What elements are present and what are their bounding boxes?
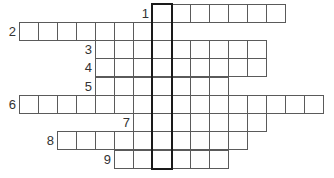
grid-cell[interactable] [133, 113, 153, 132]
grid-cell[interactable] [152, 58, 172, 77]
grid-cell[interactable] [133, 77, 153, 96]
grid-cell[interactable] [76, 95, 96, 114]
grid-cell[interactable] [209, 40, 229, 59]
grid-cell[interactable] [228, 95, 248, 114]
grid-cell[interactable] [228, 40, 248, 59]
clue-number-8: 8 [40, 134, 54, 147]
grid-cell[interactable] [133, 150, 153, 169]
grid-cell[interactable] [38, 22, 58, 41]
grid-cell[interactable] [171, 113, 191, 132]
grid-cell[interactable] [285, 95, 305, 114]
grid-cell[interactable] [247, 58, 267, 77]
grid-cell[interactable] [190, 40, 210, 59]
grid-cell[interactable] [209, 95, 229, 114]
grid-cell[interactable] [247, 113, 267, 132]
clue-number-6: 6 [2, 98, 16, 111]
grid-cell[interactable] [209, 77, 229, 96]
grid-cell[interactable] [152, 40, 172, 59]
grid-cell[interactable] [152, 131, 172, 150]
clue-number-2: 2 [2, 25, 16, 38]
grid-cell[interactable] [247, 4, 267, 23]
grid-cell[interactable] [190, 77, 210, 96]
grid-cell[interactable] [114, 150, 134, 169]
grid-cell[interactable] [152, 22, 172, 41]
grid-cell[interactable] [152, 113, 172, 132]
grid-cell[interactable] [190, 4, 210, 23]
grid-cell[interactable] [171, 58, 191, 77]
grid-cell[interactable] [228, 4, 248, 23]
clue-number-5: 5 [78, 80, 92, 93]
grid-cell[interactable] [19, 95, 39, 114]
crossword-grid: 123456789 [0, 0, 334, 178]
grid-cell[interactable] [152, 77, 172, 96]
grid-cell[interactable] [95, 22, 115, 41]
grid-cell[interactable] [209, 131, 229, 150]
clue-number-9: 9 [97, 153, 111, 166]
grid-cell[interactable] [114, 40, 134, 59]
grid-cell[interactable] [95, 77, 115, 96]
clue-number-1: 1 [135, 7, 149, 20]
grid-cell[interactable] [171, 95, 191, 114]
grid-cell[interactable] [57, 131, 77, 150]
grid-cell[interactable] [228, 131, 248, 150]
grid-cell[interactable] [114, 58, 134, 77]
grid-cell[interactable] [95, 95, 115, 114]
grid-cell[interactable] [152, 150, 172, 169]
grid-cell[interactable] [152, 4, 172, 23]
grid-cell[interactable] [209, 150, 229, 169]
grid-cell[interactable] [171, 77, 191, 96]
grid-cell[interactable] [152, 95, 172, 114]
grid-cell[interactable] [190, 113, 210, 132]
grid-cell[interactable] [76, 22, 96, 41]
grid-cell[interactable] [266, 95, 286, 114]
grid-cell[interactable] [114, 131, 134, 150]
grid-cell[interactable] [171, 4, 191, 23]
grid-cell[interactable] [57, 95, 77, 114]
grid-cell[interactable] [114, 95, 134, 114]
grid-cell[interactable] [57, 22, 77, 41]
grid-cell[interactable] [114, 22, 134, 41]
grid-cell[interactable] [171, 150, 191, 169]
grid-cell[interactable] [133, 40, 153, 59]
grid-cell[interactable] [247, 95, 267, 114]
grid-cell[interactable] [171, 131, 191, 150]
grid-cell[interactable] [228, 58, 248, 77]
clue-number-3: 3 [78, 43, 92, 56]
grid-cell[interactable] [190, 95, 210, 114]
grid-cell[interactable] [247, 40, 267, 59]
clue-number-7: 7 [116, 116, 130, 129]
grid-cell[interactable] [133, 131, 153, 150]
grid-cell[interactable] [19, 22, 39, 41]
grid-cell[interactable] [209, 113, 229, 132]
grid-cell[interactable] [209, 4, 229, 23]
grid-cell[interactable] [266, 4, 286, 23]
grid-cell[interactable] [133, 22, 153, 41]
grid-cell[interactable] [114, 77, 134, 96]
grid-cell[interactable] [228, 113, 248, 132]
clue-number-4: 4 [78, 61, 92, 74]
grid-cell[interactable] [190, 58, 210, 77]
grid-cell[interactable] [95, 131, 115, 150]
grid-cell[interactable] [95, 40, 115, 59]
grid-cell[interactable] [38, 95, 58, 114]
grid-cell[interactable] [171, 40, 191, 59]
grid-cell[interactable] [133, 58, 153, 77]
grid-cell[interactable] [76, 131, 96, 150]
grid-cell[interactable] [190, 131, 210, 150]
grid-cell[interactable] [190, 150, 210, 169]
grid-cell[interactable] [95, 58, 115, 77]
grid-cell[interactable] [209, 58, 229, 77]
grid-cell[interactable] [133, 95, 153, 114]
grid-cell[interactable] [304, 95, 324, 114]
